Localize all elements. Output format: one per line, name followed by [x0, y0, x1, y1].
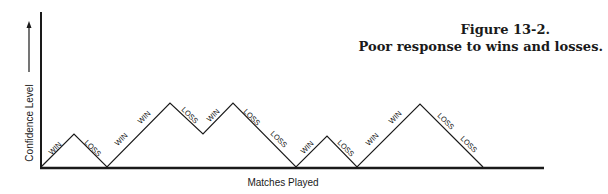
x-axis-label: Matches Played — [247, 177, 318, 188]
segment-label-loss: LOSS — [436, 111, 457, 132]
segment-label-loss: LOSS — [269, 129, 290, 150]
segment-label-loss: LOSS — [83, 138, 104, 159]
segment-label-win: WIN — [364, 131, 381, 148]
segment-label-win: WIN — [113, 131, 130, 148]
figure-title: Figure 13-2. — [461, 22, 550, 37]
confidence-line — [41, 103, 483, 167]
figure: Confidence Level Matches Played WINLOSSW… — [0, 0, 608, 194]
y-axis-label: Confidence Level — [24, 84, 35, 161]
segment-labels: WINLOSSWINWINLOSSWINLOSSLOSSWINLOSSWINWI… — [47, 105, 479, 159]
segment-label-win: WIN — [205, 107, 222, 124]
segment-label-loss: LOSS — [242, 107, 263, 128]
segment-label-win: WIN — [47, 140, 64, 157]
segment-label-loss: LOSS — [459, 134, 480, 155]
figure-subtitle: Poor response to wins and losses. — [359, 39, 603, 54]
segment-label-win: WIN — [299, 139, 316, 156]
up-arrow-icon — [27, 21, 32, 72]
